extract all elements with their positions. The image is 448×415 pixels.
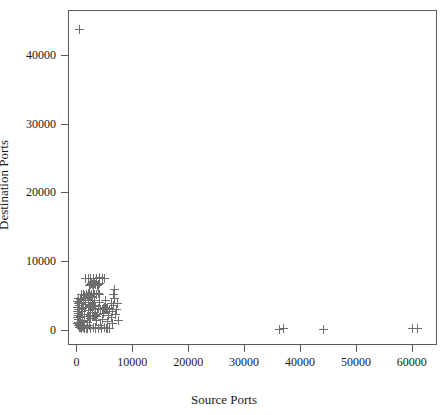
x-tick <box>412 345 413 352</box>
x-tick-label: 0 <box>73 355 79 370</box>
y-tick <box>61 261 68 262</box>
x-axis-title: Source Ports <box>0 392 448 408</box>
x-tick-label: 10000 <box>117 355 147 370</box>
y-tick-label: 0 <box>50 322 56 337</box>
x-tick <box>356 345 357 352</box>
x-tick-label: 40000 <box>285 355 315 370</box>
y-tick <box>61 192 68 193</box>
x-tick <box>132 345 133 352</box>
scatter-plot-figure: 0100002000030000400005000060000 01000020… <box>0 0 448 415</box>
x-tick-label: 50000 <box>341 355 371 370</box>
x-tick <box>188 345 189 352</box>
y-tick-label: 40000 <box>26 47 56 62</box>
y-tick-label: 10000 <box>26 254 56 269</box>
plot-area-frame <box>68 10 437 345</box>
y-axis-title: Destination Ports <box>0 140 12 230</box>
x-tick <box>76 345 77 352</box>
x-tick-label: 20000 <box>173 355 203 370</box>
y-tick <box>61 124 68 125</box>
y-tick <box>61 55 68 56</box>
x-tick <box>300 345 301 352</box>
y-tick-label: 20000 <box>26 185 56 200</box>
x-tick-label: 30000 <box>229 355 259 370</box>
x-tick-label: 60000 <box>397 355 427 370</box>
x-tick <box>244 345 245 352</box>
y-tick <box>61 330 68 331</box>
y-tick-label: 30000 <box>26 116 56 131</box>
